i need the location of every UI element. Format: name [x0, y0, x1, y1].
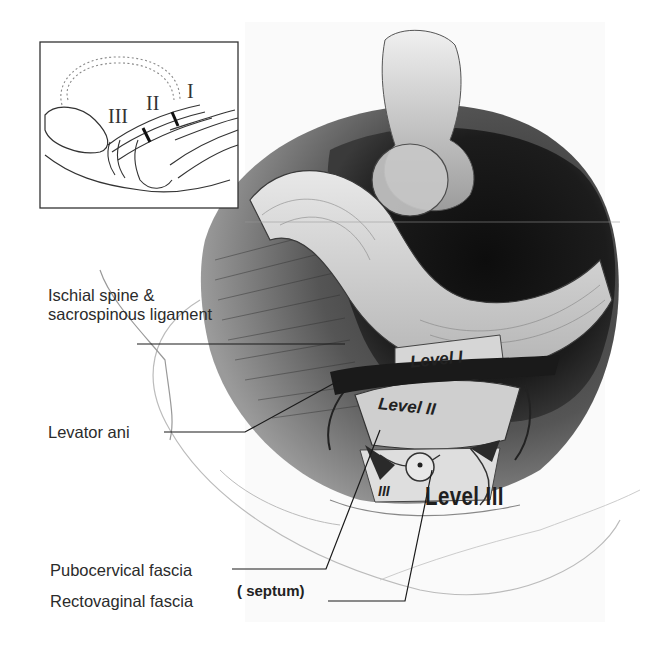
inset-label-level-1: I — [187, 80, 194, 103]
inset-sagittal-diagram — [40, 42, 238, 208]
anatomy-figure: III II I Level I Level II III Level III … — [0, 0, 652, 656]
illustration-svg — [0, 0, 652, 656]
callout-rectovaginal-fascia: Rectovaginal fascia — [50, 592, 193, 611]
band-label-level-3-small: III — [378, 483, 390, 499]
callout-ischial-spine: Ischial spine & sacrospinous ligament — [48, 286, 218, 324]
callout-levator-ani: Levator ani — [48, 423, 130, 442]
callout-septum: ( septum) — [237, 582, 305, 599]
level-2-plate — [355, 381, 520, 450]
callout-pubocervical-fascia: Pubocervical fascia — [50, 561, 192, 580]
inset-label-level-2: II — [146, 92, 159, 115]
inset-label-level-3: III — [108, 105, 128, 128]
level-3-label: Level III — [425, 482, 504, 511]
